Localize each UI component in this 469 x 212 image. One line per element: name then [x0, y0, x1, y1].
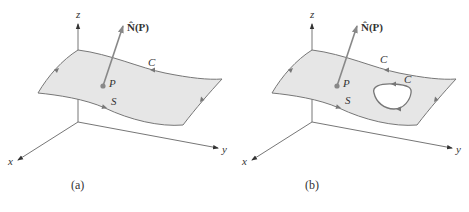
surface-s-label-a: S: [111, 95, 117, 107]
figure-b: z x y N̂(P) P C C S (b): [241, 8, 461, 192]
diagram-canvas: z x y N̂(P) P C S (a) z x y N̂(P): [0, 0, 469, 212]
surface-s-label-b: S: [345, 94, 351, 106]
point-p-label-a: P: [108, 77, 116, 89]
x-label-b: x: [241, 155, 247, 167]
figure-a: z x y N̂(P) P C S (a): [7, 8, 227, 192]
x-label-a: x: [7, 155, 13, 167]
inner-boundary-c-label-b: C: [404, 73, 412, 85]
surface-s-b: [272, 50, 456, 125]
y-label-a: y: [221, 143, 227, 155]
x-axis-b: [252, 122, 312, 160]
y-axis-a: [78, 122, 218, 148]
normal-label-b: N̂(P): [361, 21, 383, 34]
caption-b: (b): [305, 178, 319, 192]
point-p-a: [100, 83, 105, 88]
boundary-c-label-a: C: [148, 56, 156, 68]
caption-a: (a): [71, 178, 84, 192]
surface-s-a: [38, 50, 222, 125]
z-label-a: z: [75, 8, 81, 20]
y-axis-b: [312, 122, 452, 148]
boundary-c-label-b: C: [380, 53, 388, 65]
point-p-label-b: P: [342, 77, 350, 89]
z-label-b: z: [309, 8, 315, 20]
point-p-b: [334, 83, 339, 88]
x-axis-a: [18, 122, 78, 160]
y-label-b: y: [455, 143, 461, 155]
normal-label-a: N̂(P): [127, 21, 149, 34]
